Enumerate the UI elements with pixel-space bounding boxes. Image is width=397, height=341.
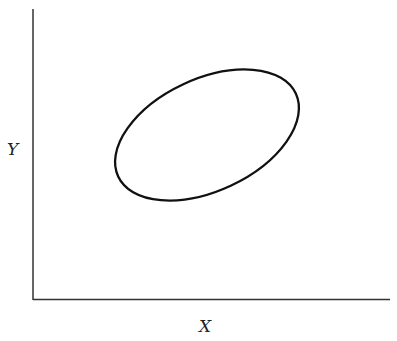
ellipse-contour	[95, 43, 320, 227]
y-axis-label: Y	[7, 139, 20, 159]
diagram-canvas: Y X	[0, 0, 397, 341]
x-axis-label: X	[197, 316, 212, 336]
